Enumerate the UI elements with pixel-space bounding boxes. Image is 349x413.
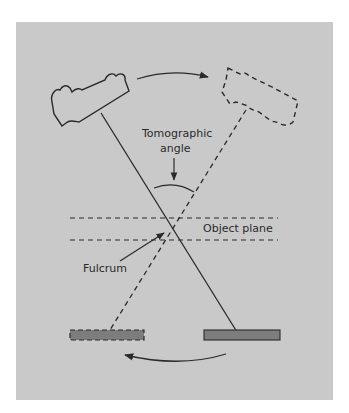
x-ray-tube-final bbox=[222, 68, 298, 125]
film-motion-arrow bbox=[125, 354, 226, 361]
fulcrum-label: Fulcrum bbox=[83, 262, 127, 275]
film-final bbox=[70, 330, 144, 340]
tomographic-angle-label-line2: angle bbox=[160, 142, 191, 155]
tomography-diagram bbox=[0, 0, 349, 413]
fulcrum-arrow bbox=[120, 233, 164, 261]
tomographic-angle-label-line1: Tomographic bbox=[142, 127, 212, 140]
x-ray-tube-initial bbox=[52, 74, 129, 126]
film-initial bbox=[204, 330, 280, 340]
angle-arc bbox=[154, 185, 194, 192]
tube-motion-arrow bbox=[137, 73, 208, 79]
object-plane-label: Object plane bbox=[203, 222, 273, 235]
